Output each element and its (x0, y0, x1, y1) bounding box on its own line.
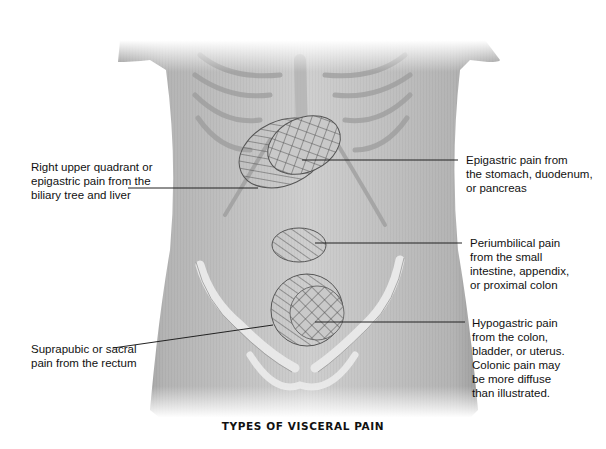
label-periumbilical: Periumbilical pain from the small intest… (470, 236, 569, 292)
label-line: the stomach, duodenum, (466, 167, 593, 181)
region-periumbilical (272, 228, 326, 262)
figure-title: TYPES OF VISCERAL PAIN (0, 420, 606, 432)
label-line: from the colon, (472, 330, 565, 344)
label-line: Right upper quadrant or (31, 160, 152, 174)
label-line: be more diffuse (472, 372, 565, 386)
label-line: pain from the rectum (31, 356, 136, 370)
label-line: Epigastric pain from (466, 153, 593, 167)
label-line: bladder, or uterus. (472, 344, 565, 358)
label-line: intestine, appendix, (470, 264, 569, 278)
label-line: Colonic pain may (472, 358, 565, 372)
label-line: from the small (470, 250, 569, 264)
label-line: or pancreas (466, 181, 593, 195)
label-line: biliary tree and liver (31, 188, 152, 202)
label-line: than illustrated. (472, 386, 565, 400)
label-line: Hypogastric pain (472, 316, 565, 330)
label-line: Suprapubic or sacral (31, 342, 136, 356)
label-line: epigastric pain from the (31, 174, 152, 188)
label-suprapubic: Suprapubic or sacral pain from the rectu… (31, 342, 136, 370)
region-hypogastric (290, 286, 344, 340)
label-line: or proximal colon (470, 278, 569, 292)
label-epigastric: Epigastric pain from the stomach, duoden… (466, 153, 593, 195)
label-line: Periumbilical pain (470, 236, 569, 250)
label-hypogastric: Hypogastric pain from the colon, bladder… (472, 316, 565, 400)
label-ruq: Right upper quadrant or epigastric pain … (31, 160, 152, 202)
